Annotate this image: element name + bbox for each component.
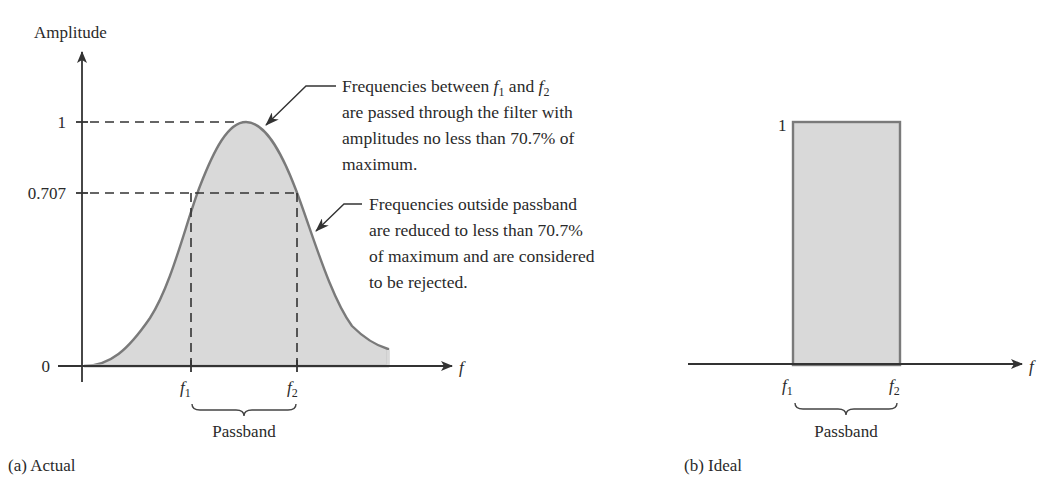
annotation-1-line-2: are passed through the filter with (342, 102, 573, 122)
bandpass-filter-figure: Amplitude f 1 0.707 0 f1 f2 Passband (a)… (0, 0, 1049, 498)
annotation-1-line-4: maximum. (342, 154, 417, 174)
annotation-passed: Frequencies between f1 and f2 are passed… (342, 76, 575, 174)
panel-actual: Amplitude f 1 0.707 0 f1 f2 Passband (a)… (8, 23, 595, 475)
y-tick-label-ideal: 1 (778, 116, 787, 135)
passband-label-ideal: Passband (814, 422, 878, 441)
y-tick-label-0: 0 (42, 357, 51, 376)
annotation-2-line-1: Frequencies outside passband (369, 194, 577, 214)
passband-brace-ideal (795, 403, 897, 415)
f2-label-ideal: f2 (889, 376, 900, 398)
annotation-1-line-1: Frequencies between f1 and f2 (342, 76, 549, 99)
annotation-2-line-4: to be rejected. (369, 272, 468, 292)
passband-brace (192, 404, 296, 416)
annotation-2-line-2: are reduced to less than 70.7% (369, 220, 583, 240)
caption-actual: (a) Actual (8, 456, 76, 475)
annotation-2-line-3: of maximum and are considered (369, 246, 595, 266)
f2-label: f2 (287, 378, 298, 400)
caption-ideal: (b) Ideal (684, 456, 742, 475)
x-axis-label: f (459, 358, 466, 377)
annotation-2-leader (316, 204, 362, 231)
passband-label: Passband (212, 422, 276, 441)
y-tick-label-1: 1 (58, 113, 67, 132)
ideal-passband-rect (793, 122, 900, 365)
f1-label-ideal: f1 (782, 376, 793, 398)
y-tick-label-0707: 0.707 (28, 184, 67, 203)
annotation-rejected: Frequencies outside passband are reduced… (369, 194, 595, 292)
f1-label: f1 (180, 378, 191, 400)
annotation-1-leader (266, 86, 336, 125)
panel-ideal: f 1 f1 f2 Passband (b) Ideal (684, 116, 1036, 475)
annotation-1-line-3: amplitudes no less than 70.7% of (342, 128, 575, 148)
y-axis-label: Amplitude (34, 23, 107, 42)
x-axis-label-ideal: f (1029, 357, 1036, 376)
